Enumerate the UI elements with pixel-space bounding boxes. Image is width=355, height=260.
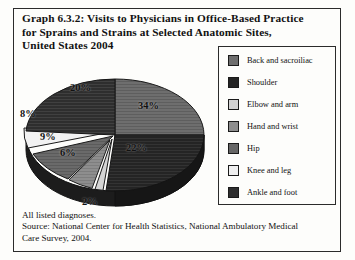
legend-label-elbow: Elbow and arm [247,100,298,109]
legend-item-hand: Hand and wrist [228,121,298,132]
pie-chart: 34% 22% 2% 6% 9% 8% 20% [18,56,214,216]
legend-item-ankle: Ankle and foot [228,187,297,198]
legend-item-elbow: Elbow and arm [228,99,298,110]
legend-swatch-knee [228,165,239,176]
slice-label-ankle: 20% [70,82,91,93]
slice-shoulder [106,135,204,191]
slice-label-shoulder: 22% [126,142,147,153]
slice-label-back: 34% [138,100,159,111]
footnote-source-2: Care Survey, 2004. [22,233,322,244]
footnote-source-1: Source: National Center for Health Stati… [22,221,322,232]
legend-item-hip: Hip [228,143,260,154]
footnote-diagnoses: All listed diagnoses. [22,210,322,221]
slice-label-hand: 6% [60,147,76,158]
legend-item-shoulder: Shoulder [228,77,277,88]
chart-legend: Back and sacroiliac Shoulder Elbow and a… [218,46,336,205]
legend-swatch-hip [228,143,239,154]
slice-label-elbow: 2% [82,196,98,207]
legend-label-back: Back and sacroiliac [247,56,313,65]
title-line-1: Graph 6.3.2: Visits to Physicians in Off… [22,12,314,26]
legend-swatch-ankle [228,187,239,198]
legend-item-back: Back and sacroiliac [228,55,313,66]
legend-label-hip: Hip [247,144,260,153]
legend-item-knee: Knee and leg [228,165,291,176]
chart-figure: Graph 6.3.2: Visits to Physicians in Off… [0,0,355,260]
legend-label-shoulder: Shoulder [247,78,277,87]
figure-footnote: All listed diagnoses. Source: National C… [22,210,322,244]
slice-label-hip: 9% [40,131,56,142]
legend-swatch-elbow [228,99,239,110]
legend-swatch-shoulder [228,77,239,88]
legend-label-knee: Knee and leg [247,166,291,175]
legend-label-ankle: Ankle and foot [247,188,297,197]
legend-swatch-back [228,55,239,66]
title-line-2: for Sprains and Strains at Selected Anat… [22,26,314,40]
slice-back [115,79,204,135]
legend-swatch-hand [228,121,239,132]
slice-label-knee: 8% [20,108,36,119]
legend-label-hand: Hand and wrist [247,122,298,131]
